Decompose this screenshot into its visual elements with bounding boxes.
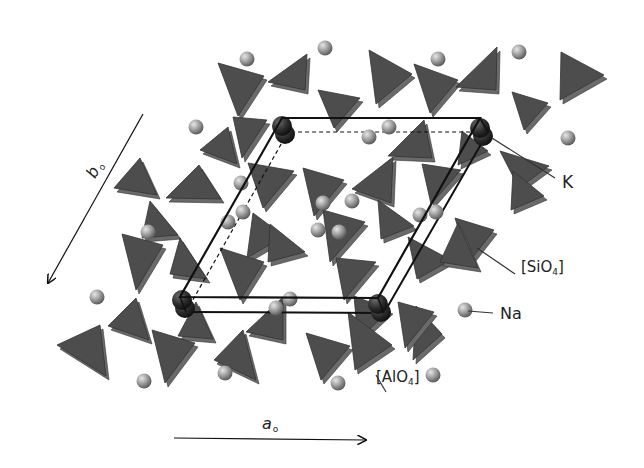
- label-k-text: K: [562, 172, 573, 192]
- tetrahedron: [352, 157, 393, 203]
- tetrahedron: [456, 47, 497, 90]
- label-na: Na: [500, 304, 522, 323]
- label-na-text: Na: [500, 304, 522, 323]
- na-atom: [431, 52, 446, 67]
- na-atom: [561, 131, 576, 146]
- structure-canvas: [0, 0, 644, 468]
- label-sio4: [SiO4]: [521, 258, 564, 277]
- na-atom: [332, 225, 347, 240]
- crystal-structure-diagram: ao bo K [SiO4] Na [AlO4]: [0, 0, 644, 468]
- na-atom: [345, 194, 360, 209]
- na-atom: [137, 374, 152, 389]
- label-alo4: [AlO4]: [376, 368, 420, 387]
- na-atom: [512, 45, 527, 60]
- na-atom: [141, 225, 156, 240]
- na-atom: [316, 196, 331, 211]
- na-atom: [382, 120, 397, 135]
- axis-a-subscript: o: [273, 424, 279, 434]
- label-k: K: [562, 172, 573, 192]
- na-atom: [236, 205, 251, 220]
- leader-line-sio4: [477, 248, 515, 274]
- na-atom: [218, 366, 233, 381]
- na-atom: [318, 41, 333, 56]
- na-atom: [331, 376, 346, 391]
- tetrahedron: [166, 165, 221, 199]
- na-atom: [283, 292, 298, 307]
- na-atom: [426, 368, 441, 383]
- na-atom: [311, 223, 326, 238]
- axis-a-arrow: [174, 438, 366, 440]
- na-atom: [362, 130, 377, 145]
- k-atom: [470, 118, 490, 138]
- tetrahedra-layer: [57, 47, 607, 387]
- tetrahedron: [114, 158, 157, 195]
- na-atom: [269, 301, 284, 316]
- label-sio4-suffix: ]: [558, 258, 564, 276]
- axis-a-symbol: a: [262, 414, 272, 433]
- label-sio4-prefix: [SiO: [521, 258, 552, 276]
- na-atom: [189, 120, 204, 135]
- axis-label-a: ao: [262, 414, 278, 434]
- label-alo4-prefix: [AlO: [376, 368, 408, 386]
- na-atom: [458, 303, 473, 318]
- na-atom: [90, 290, 105, 305]
- label-alo4-suffix: ]: [414, 368, 420, 386]
- na-atom: [240, 52, 255, 67]
